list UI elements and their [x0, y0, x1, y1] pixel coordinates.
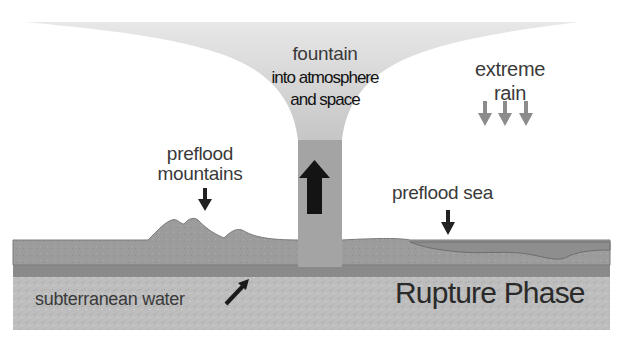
rain-arrows-icon: [478, 101, 533, 126]
mountains-label: preflood: [140, 144, 260, 164]
rain-label: extreme: [465, 59, 555, 80]
phase-title: Rupture Phase: [395, 277, 595, 309]
subterranean-water-label: subterranean water: [35, 290, 235, 309]
fountain-label: fountain: [255, 44, 395, 64]
mountains-label-line2: mountains: [140, 164, 260, 184]
mountains-down-arrow-icon: [198, 188, 212, 211]
sea-label: preflood sea: [392, 183, 512, 203]
rupture-phase-diagram: fountain into atmosphere and space extre…: [0, 0, 620, 337]
sea-down-arrow-icon: [441, 210, 455, 235]
rain-label-line2: rain: [465, 83, 555, 104]
fountain-label-line3: and space: [255, 91, 395, 109]
fountain-label-line2: into atmosphere: [250, 69, 400, 87]
